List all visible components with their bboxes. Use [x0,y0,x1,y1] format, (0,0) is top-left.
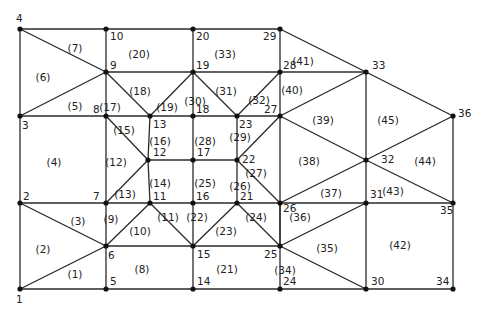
element-label: (16) [149,135,171,147]
element-label: (7) [68,42,83,54]
element-label: (3) [71,215,86,227]
node-label: 13 [153,118,166,130]
element-label: (19) [156,101,178,113]
node-point [103,243,108,248]
node-point [190,157,195,162]
element-label: (29) [229,131,251,143]
element-label: (20) [128,48,150,60]
node-label: 29 [263,30,276,42]
element-label: (37) [320,187,342,199]
node-point [190,69,195,74]
node-label: 35 [440,204,453,216]
node-point [190,113,195,118]
mesh-edge [20,246,106,289]
element-label: (4) [47,156,62,168]
node-label: 6 [108,249,115,261]
node-label: 4 [16,12,23,24]
node-labels: 1234567891011121314151617181920212223242… [16,12,472,305]
node-point [234,200,239,205]
element-label: (10) [129,225,151,237]
node-point [147,200,152,205]
node-point [147,113,152,118]
element-label: (36) [289,211,311,223]
element-label: (40) [281,84,303,96]
node-label: 33 [372,59,385,71]
node-point [17,286,22,291]
node-point [190,286,195,291]
node-point [277,286,282,291]
node-point [103,69,108,74]
element-label: (45) [377,114,399,126]
node-label: 30 [371,275,384,287]
node-label: 36 [458,107,472,119]
node-label: 11 [153,190,166,202]
node-label: 2 [23,190,30,202]
element-label: (17) [99,101,121,113]
element-label: (15) [113,124,135,136]
element-label: (21) [216,263,238,275]
element-label: (38) [298,155,320,167]
element-label: (12) [105,156,127,168]
element-label: (13) [114,188,136,200]
node-point [17,200,22,205]
node-label: 12 [153,146,166,158]
fe-mesh-diagram: 1234567891011121314151617181920212223242… [0,0,486,313]
node-label: 3 [22,119,29,131]
node-label: 9 [110,59,117,71]
element-label: (39) [312,114,334,126]
node-label: 32 [381,153,394,165]
node-point [103,113,108,118]
node-label: 20 [196,30,209,42]
element-label: (30) [184,95,206,107]
node-point [277,113,282,118]
element-label: (5) [68,100,83,112]
element-label: (27) [245,167,267,179]
element-label: (26) [229,180,251,192]
node-point [190,200,195,205]
element-label: (32) [248,94,270,106]
node-label: 14 [197,275,211,287]
element-label: (22) [186,211,208,223]
element-label: (31) [215,85,237,97]
element-label: (44) [414,155,436,167]
node-point [277,200,282,205]
node-point [277,26,282,31]
node-label: 19 [196,59,209,71]
mesh-edge [20,29,106,72]
element-label: (25) [194,177,216,189]
node-point [363,286,368,291]
element-label: (23) [215,225,237,237]
node-point [363,200,368,205]
node-point [103,26,108,31]
node-point [103,286,108,291]
node-label: 15 [197,248,210,260]
element-label: (34) [274,264,296,276]
node-point [450,286,455,291]
node-point [363,69,368,74]
node-label: 1 [16,293,23,305]
mesh-edge [366,72,453,116]
element-label: (35) [316,242,338,254]
element-label: (43) [382,185,404,197]
node-point [363,157,368,162]
node-point [17,113,22,118]
node-label: 34 [436,275,450,287]
node-label: 16 [196,190,210,202]
element-label: (42) [389,239,411,251]
mesh-edge [20,203,106,246]
node-label: 22 [242,153,255,165]
element-label: (33) [214,48,236,60]
node-label: 7 [93,190,100,202]
mesh-edge [106,116,148,160]
element-label: (24) [245,211,267,223]
element-label: (1) [68,268,83,280]
node-label: 5 [110,275,117,287]
element-label: (6) [36,71,51,83]
element-label: (11) [157,211,179,223]
node-point [190,243,195,248]
node-label: 17 [197,146,210,158]
element-label: (14) [149,177,171,189]
element-label: (8) [135,263,150,275]
mesh-edge [237,203,280,246]
element-label: (18) [129,85,151,97]
